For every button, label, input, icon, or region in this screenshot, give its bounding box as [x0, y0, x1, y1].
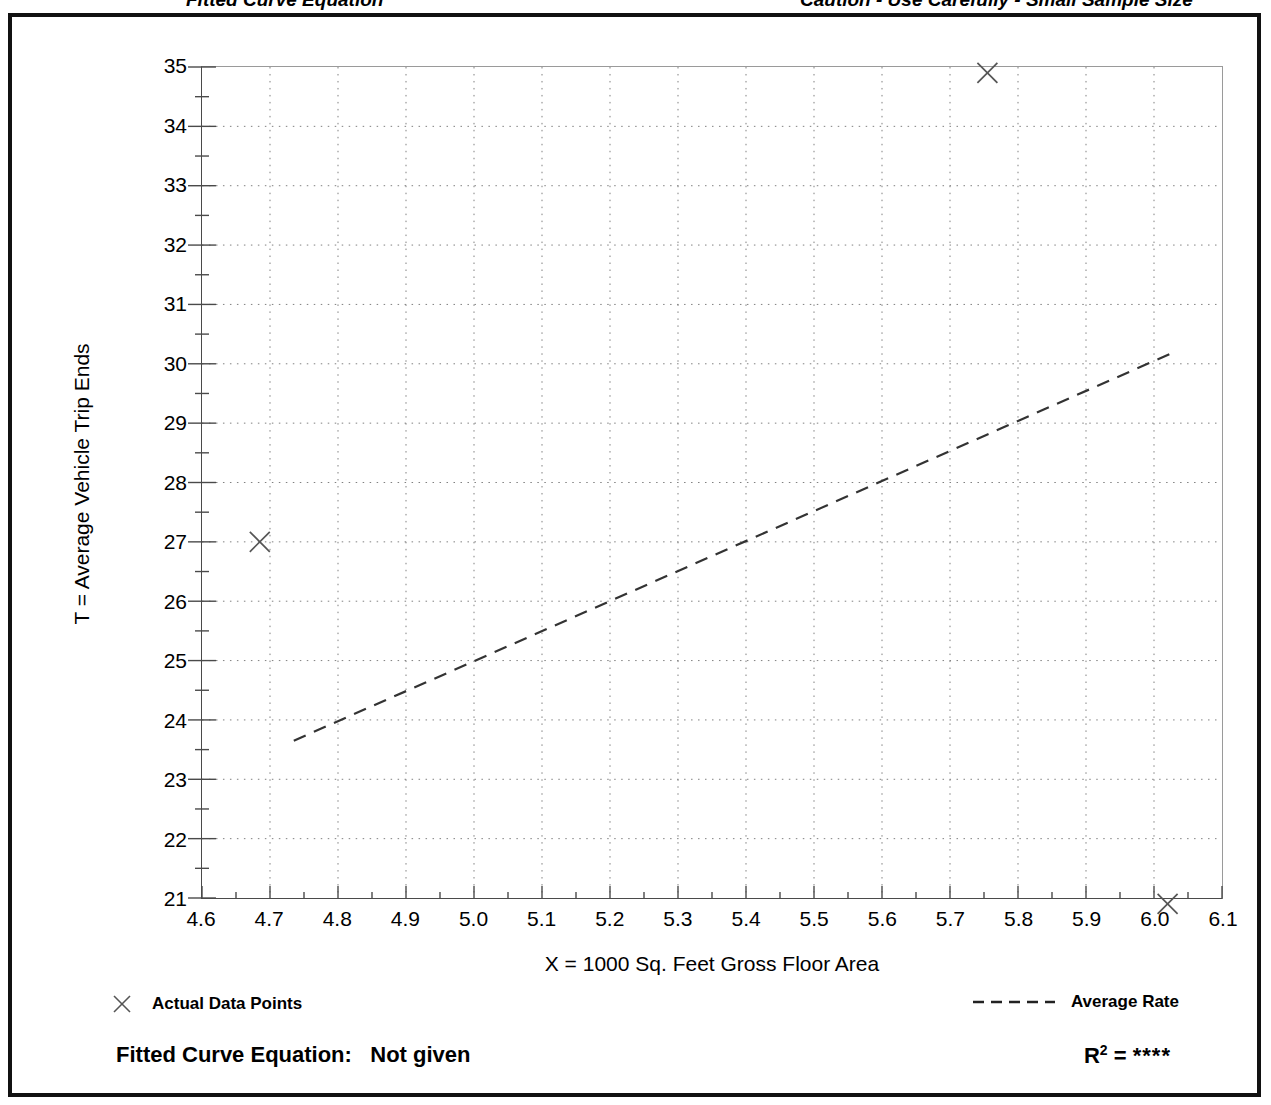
fitted-curve-equation: Fitted Curve Equation: Not given: [116, 1042, 471, 1068]
r-squared-number: ****: [1133, 1043, 1171, 1068]
x-tick-label: 6.1: [1188, 907, 1258, 931]
x-tick-label: 4.9: [370, 907, 440, 931]
x-tick-label: 5.6: [847, 907, 917, 931]
legend-row: Actual Data Points Average Rate: [12, 992, 1257, 1026]
page-header-left-text: Fitted Curve Equation: [186, 0, 383, 13]
x-tick-label: 4.6: [166, 907, 236, 931]
y-tick-label: 27: [141, 531, 187, 552]
r-squared-exponent: 2: [1100, 1042, 1108, 1058]
y-tick-label: 35: [141, 55, 187, 76]
legend-entry-actual-data-points: Actual Data Points: [110, 992, 302, 1016]
y-axis-tick-labels: 212223242526272829303132333435: [137, 66, 187, 899]
r-squared-equals: =: [1114, 1043, 1127, 1068]
x-tick-label: 5.2: [575, 907, 645, 931]
y-tick-label: 32: [141, 234, 187, 255]
y-axis-title: T = Average Vehicle Trip Ends: [70, 104, 94, 864]
x-tick-label: 5.3: [643, 907, 713, 931]
y-tick-label: 31: [141, 293, 187, 314]
x-tick-label: 5.9: [1052, 907, 1122, 931]
legend-label-average-rate: Average Rate: [1071, 992, 1179, 1012]
page-header-clipped: Fitted Curve Equation Caution - Use Care…: [0, 0, 1271, 13]
page-header-right-caution: Caution - Use Carefully - Small Sample S…: [800, 0, 1193, 13]
equation-row: Fitted Curve Equation: Not given R2 = **…: [12, 1042, 1257, 1082]
x-tick-label: 6.0: [1120, 907, 1190, 931]
fitted-curve-equation-value: Not given: [370, 1042, 470, 1067]
y-tick-label: 25: [141, 650, 187, 671]
r-squared-value: R2 = ****: [1084, 1042, 1171, 1069]
x-tick-label: 5.4: [711, 907, 781, 931]
y-tick-label: 23: [141, 769, 187, 790]
data-series-layer: [202, 67, 1222, 898]
x-tick-label: 5.7: [915, 907, 985, 931]
legend-entry-average-rate: Average Rate: [971, 992, 1179, 1012]
y-tick-label: 34: [141, 115, 187, 136]
x-tick-label: 4.7: [234, 907, 304, 931]
dashed-line-icon: [971, 996, 1057, 1008]
data-point-marker: [250, 532, 270, 552]
y-tick-label: 21: [141, 888, 187, 909]
y-tick-label: 24: [141, 710, 187, 731]
y-tick-label: 29: [141, 412, 187, 433]
fitted-curve-equation-label: Fitted Curve Equation:: [116, 1042, 352, 1067]
y-tick-label: 33: [141, 174, 187, 195]
data-point-marker: [977, 63, 997, 83]
x-axis-title: X = 1000 Sq. Feet Gross Floor Area: [201, 952, 1223, 976]
r-squared-symbol: R: [1084, 1043, 1100, 1068]
plot-area: [201, 66, 1223, 899]
x-tick-label: 5.0: [439, 907, 509, 931]
trend-line-average-rate: [294, 352, 1175, 741]
x-tick-label: 4.8: [302, 907, 372, 931]
y-tick-label: 28: [141, 472, 187, 493]
x-tick-label: 5.5: [779, 907, 849, 931]
y-tick-label: 26: [141, 591, 187, 612]
legend-label-actual-data-points: Actual Data Points: [152, 994, 302, 1014]
x-axis-tick-labels: 4.64.74.84.95.05.15.25.35.45.55.65.75.85…: [201, 907, 1223, 939]
x-tick-label: 5.8: [984, 907, 1054, 931]
y-tick-label: 22: [141, 829, 187, 850]
figure-frame: 212223242526272829303132333435 4.64.74.8…: [8, 13, 1261, 1097]
cross-marker-icon: [110, 992, 134, 1016]
x-tick-label: 5.1: [507, 907, 577, 931]
y-tick-label: 30: [141, 353, 187, 374]
